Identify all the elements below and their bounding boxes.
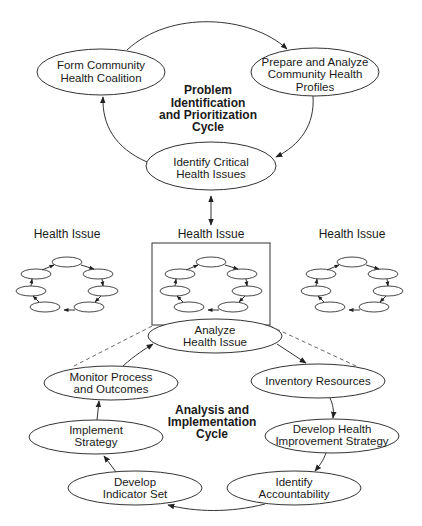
health-issue-center: Health Issue: [152, 227, 270, 325]
node-text-line: Analyze: [195, 324, 236, 336]
node-identify-accountability: Identify Accountability: [227, 471, 361, 505]
node-text-line: Health Issues: [176, 168, 246, 180]
zoom-guide-left: [74, 326, 152, 366]
arrow-analyze-to-inventory: [277, 344, 306, 363]
arrow-form-to-prepare: [127, 22, 287, 50]
svg-text:Develop: Develop: [114, 476, 156, 488]
node-form-coalition: Form Community Health Coalition: [37, 49, 165, 95]
cycle-label-line: Cycle: [192, 120, 224, 134]
node-text-line: Form Community: [57, 59, 145, 71]
node-analyze-issue: Analyze Health Issue: [148, 319, 282, 353]
node-text-line: Develop Health: [293, 423, 372, 435]
node-text-line: Monitor Process: [69, 371, 152, 383]
arrow-identify-to-form: [103, 97, 147, 162]
svg-text:Strategy: Strategy: [75, 436, 118, 448]
svg-text:and Outcomes: and Outcomes: [74, 383, 149, 395]
node-develop-strategy: Develop Health Improvement Strategy: [265, 419, 399, 453]
node-text-line: Identify: [275, 476, 312, 488]
svg-text:Analyze: Analyze: [195, 324, 236, 336]
svg-text:Cycle: Cycle: [192, 120, 224, 134]
svg-text:Health Coalition: Health Coalition: [60, 72, 141, 84]
problem-identification-cycle: Form Community Health Coalition Prepare …: [37, 22, 379, 190]
node-implement-strategy: Implement Strategy: [29, 420, 163, 454]
svg-text:Problem: Problem: [184, 83, 232, 97]
svg-text:Form Community: Form Community: [57, 59, 145, 71]
node-text-line: Identify Critical: [173, 156, 248, 168]
zoom-guide-right: [270, 326, 356, 366]
node-text-line: Implement: [69, 424, 123, 436]
svg-text:Health Issue: Health Issue: [178, 227, 245, 241]
svg-text:Identify: Identify: [275, 476, 312, 488]
community-health-improvement-diagram: Form Community Health Coalition Prepare …: [0, 0, 422, 526]
svg-text:Health Issue: Health Issue: [183, 336, 247, 348]
node-monitor-outcomes: Monitor Process and Outcomes: [44, 366, 178, 400]
node-prepare-profiles: Prepare and Analyze Community Health Pro…: [251, 48, 379, 96]
svg-text:Improvement Strategy: Improvement Strategy: [275, 435, 388, 447]
arrow-monitor-to-analyze: [123, 344, 153, 366]
node-text-line: Develop: [114, 476, 156, 488]
node-text-line: Accountability: [259, 488, 330, 500]
node-text-line: Strategy: [75, 436, 118, 448]
arrow-accountability-to-indicators: [168, 504, 265, 511]
node-text-line: Profiles: [296, 81, 335, 93]
node-text-line: Community Health: [268, 68, 363, 80]
svg-text:Health Issue: Health Issue: [319, 227, 386, 241]
svg-text:Profiles: Profiles: [296, 81, 335, 93]
svg-text:Inventory Resources: Inventory Resources: [265, 375, 371, 387]
node-inventory-resources: Inventory Resources: [251, 364, 385, 398]
node-text-line: Improvement Strategy: [275, 435, 388, 447]
svg-text:Health Issue: Health Issue: [34, 227, 101, 241]
arrow-prepare-to-identify: [276, 96, 313, 157]
top-cycle-label: Problem Identification and Prioritizatio…: [159, 83, 257, 134]
svg-text:Develop Health: Develop Health: [293, 423, 372, 435]
health-issue-right: Health Issue: [301, 227, 403, 312]
svg-text:Community Health: Community Health: [268, 68, 363, 80]
svg-text:Accountability: Accountability: [259, 488, 330, 500]
analysis-implementation-cycle: Analyze Health Issue Inventory Resources…: [29, 319, 399, 511]
node-text-line: Health Coalition: [60, 72, 141, 84]
arrow-inventory-to-strategy: [330, 398, 333, 418]
svg-text:Prepare and Analyze: Prepare and Analyze: [262, 56, 369, 68]
node-text-line: Health Issue: [183, 336, 247, 348]
node-develop-indicators: Develop Indicator Set: [68, 471, 202, 505]
health-issue-label: Health Issue: [319, 227, 386, 241]
cycle-label-line: Cycle: [196, 427, 228, 441]
node-text-line: Inventory Resources: [265, 375, 371, 387]
svg-text:Implement: Implement: [69, 424, 123, 436]
node-text-line: and Outcomes: [74, 383, 149, 395]
arrow-strategy-to-accountability: [315, 453, 326, 471]
svg-text:Indicator Set: Indicator Set: [103, 488, 168, 500]
node-identify-issues: Identify Critical Health Issues: [146, 142, 276, 190]
bottom-cycle-label: Analysis and Implementation Cycle: [168, 403, 257, 441]
arrow-implement-to-monitor: [97, 401, 99, 420]
svg-text:Cycle: Cycle: [196, 427, 228, 441]
node-text-line: Indicator Set: [103, 488, 168, 500]
cycle-label-line: Problem: [184, 83, 232, 97]
arrow-indicators-to-implement: [104, 456, 116, 472]
health-issue-label: Health Issue: [178, 227, 245, 241]
svg-text:Monitor Process: Monitor Process: [69, 371, 152, 383]
svg-text:Health Issues: Health Issues: [176, 168, 246, 180]
health-issue-label: Health Issue: [34, 227, 101, 241]
node-text-line: Prepare and Analyze: [262, 56, 369, 68]
selected-issue-frame: [152, 243, 270, 325]
svg-text:Identify Critical: Identify Critical: [173, 156, 248, 168]
health-issue-left: Health Issue: [16, 227, 118, 312]
